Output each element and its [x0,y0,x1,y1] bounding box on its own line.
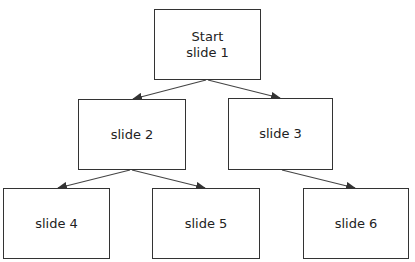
edge-3-6 [282,170,355,188]
node-slide-3: slide 3 [228,98,333,170]
edge-1-3 [208,80,280,98]
node-slide-2: slide 2 [78,99,186,170]
node-slide-1: Start slide 1 [154,9,261,80]
edge-2-5 [132,170,205,188]
edge-1-2 [133,80,206,99]
node-slide-5: slide 5 [152,188,260,259]
node-slide-6: slide 6 [303,188,409,259]
edge-2-4 [58,170,130,188]
node-slide-4: slide 4 [3,188,110,259]
